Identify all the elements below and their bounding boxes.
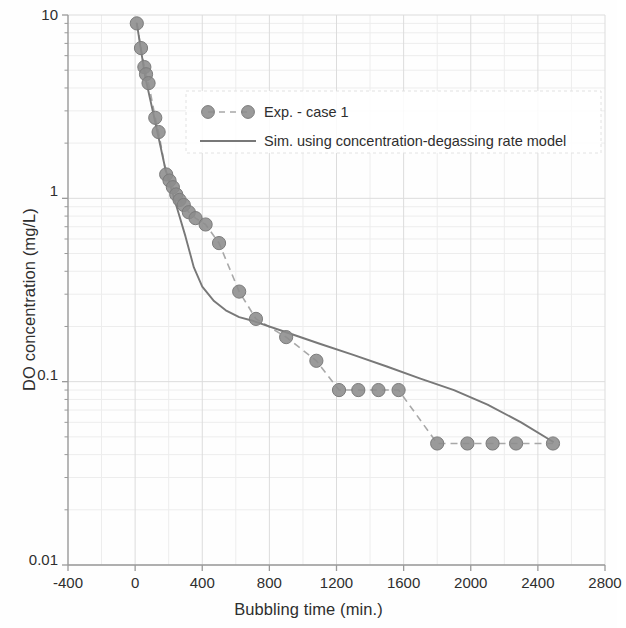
data-point-exp-case-1 (280, 331, 293, 344)
data-point-exp-case-1 (431, 437, 444, 450)
y-axis-title: DO concentration (mg/L) (20, 150, 39, 450)
data-point-exp-case-1 (134, 41, 147, 54)
legend-item-exp-case-1-label: Exp. - case 1 (264, 104, 349, 120)
data-point-exp-case-1 (152, 125, 165, 138)
data-point-exp-case-1 (199, 218, 212, 231)
legend-exp-marker-right (242, 106, 255, 119)
data-point-exp-case-1 (546, 437, 559, 450)
ytick-label-0.01: 0.01 (0, 551, 58, 568)
data-point-exp-case-1 (142, 77, 155, 90)
legend-item-sim-model-label: Sim. using concentration-degassing rate … (264, 133, 566, 149)
data-point-exp-case-1 (392, 383, 405, 396)
data-point-exp-case-1 (130, 17, 143, 30)
data-point-exp-case-1 (249, 312, 262, 325)
series-exp-case-1-dashed-line (137, 23, 553, 443)
data-point-exp-case-1 (310, 354, 323, 367)
data-point-exp-case-1 (212, 236, 225, 249)
data-point-exp-case-1 (486, 437, 499, 450)
data-point-exp-case-1 (372, 383, 385, 396)
data-point-exp-case-1 (332, 383, 345, 396)
ytick-label-10: 10 (0, 6, 58, 23)
data-point-exp-case-1 (509, 437, 522, 450)
data-point-exp-case-1 (352, 383, 365, 396)
legend-exp-marker-left (202, 106, 215, 119)
x-axis-title: Bubbling time (min.) (0, 600, 617, 619)
data-point-exp-case-1 (461, 437, 474, 450)
series-sim-model-line (137, 23, 553, 441)
data-point-exp-case-1 (149, 111, 162, 124)
xtick-label-2800: 2800 (565, 574, 626, 591)
data-point-exp-case-1 (233, 285, 246, 298)
